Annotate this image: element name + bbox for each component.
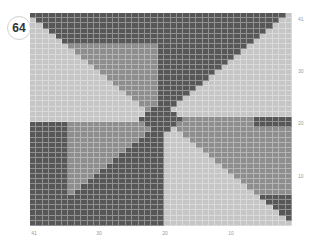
column-label: 30	[96, 230, 102, 236]
chart-number: 64	[12, 21, 25, 35]
row-label: 41	[298, 16, 304, 22]
row-label: 30	[298, 68, 304, 74]
row-label: 10	[298, 173, 304, 179]
row-label: 20	[298, 120, 304, 126]
chart-cell	[286, 221, 292, 226]
column-label: 20	[162, 230, 168, 236]
column-label: 10	[228, 230, 234, 236]
column-label: 41	[31, 230, 37, 236]
knitting-chart-grid	[30, 13, 292, 226]
chart-number-badge: 64	[7, 16, 31, 40]
